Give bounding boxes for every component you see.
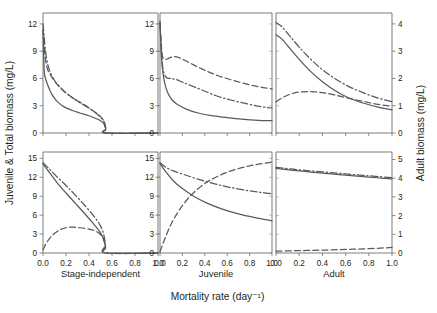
- x-tick-label: 0.6: [340, 259, 352, 268]
- y-tick-label: 5: [398, 155, 403, 164]
- x-tick-label: 0.2: [294, 259, 306, 268]
- column-label-1: Juvenile: [199, 268, 233, 279]
- y-tick-label: 3: [32, 102, 37, 111]
- x-tick-label: 0.4: [199, 259, 211, 268]
- figure-panel-grid: 036912036912012340.00.20.40.60.81.003691…: [0, 0, 437, 313]
- x-tick-label: 0.0: [37, 259, 49, 268]
- y-tick-label: 0: [398, 129, 403, 138]
- series-dashed: [276, 92, 392, 107]
- y-tick-label: 1: [398, 230, 403, 239]
- y-tick-label: 9: [32, 47, 37, 56]
- y-tick-label: 12: [145, 20, 155, 29]
- y-tick-label: 9: [32, 192, 37, 201]
- y-axis-title-right: Adult biomass (mg/L): [415, 85, 426, 181]
- series-solid: [43, 31, 158, 133]
- x-tick-label: 0.0: [154, 259, 166, 268]
- y-tick-label: 1: [398, 102, 403, 111]
- y-tick-label: 0: [398, 249, 403, 258]
- y-tick-label: 0: [149, 249, 154, 258]
- x-tick-label: 0.2: [177, 259, 189, 268]
- series-solid: [276, 35, 392, 110]
- series-dashdot: [276, 167, 392, 177]
- series-dashed: [43, 29, 158, 133]
- series-dashdot: [160, 21, 272, 108]
- y-tick-label: 3: [149, 230, 154, 239]
- y-tick-label: 3: [32, 230, 37, 239]
- x-tick-label: 0.4: [317, 259, 329, 268]
- series-dashdot: [160, 163, 272, 194]
- x-tick-label: 0.4: [83, 259, 95, 268]
- x-tick-label: 0.6: [106, 259, 118, 268]
- x-tick-label: 0.8: [363, 259, 375, 268]
- x-axis-title: Mortality rate (day⁻¹): [171, 291, 265, 302]
- y-tick-label: 9: [149, 192, 154, 201]
- y-tick-label: 4: [398, 174, 403, 183]
- y-tick-label: 0: [32, 249, 37, 258]
- y-tick-label: 3: [398, 193, 403, 202]
- x-tick-label: 0.8: [129, 259, 141, 268]
- y-tick-label: 2: [398, 212, 403, 221]
- y-tick-label: 3: [149, 102, 154, 111]
- x-tick-label: 0.2: [60, 259, 72, 268]
- series-dashdot: [43, 163, 158, 254]
- y-tick-label: 15: [28, 154, 38, 163]
- y-tick-label: 2: [398, 74, 403, 83]
- y-tick-label: 12: [145, 173, 155, 182]
- y-tick-label: 0: [32, 129, 37, 138]
- series-dashed: [43, 227, 158, 253]
- y-tick-label: 3: [398, 47, 403, 56]
- column-label-0: Stage-independent: [61, 268, 141, 279]
- x-tick-label: 0.0: [270, 259, 282, 268]
- x-tick-label: 0.8: [244, 259, 256, 268]
- chart-svg: 036912036912012340.00.20.40.60.81.003691…: [0, 0, 437, 313]
- y-tick-label: 15: [145, 154, 155, 163]
- y-tick-label: 9: [149, 47, 154, 56]
- series-solid: [43, 164, 158, 253]
- y-tick-label: 12: [28, 20, 38, 29]
- y-tick-label: 0: [149, 129, 154, 138]
- x-tick-label: 0.6: [222, 259, 234, 268]
- y-axis-title-left: Juvenile & Total biomass (mg/L): [4, 61, 15, 205]
- y-tick-label: 6: [149, 74, 154, 83]
- column-label-2: Adult: [323, 268, 345, 279]
- y-tick-label: 6: [32, 74, 37, 83]
- y-tick-label: 4: [398, 20, 403, 29]
- series-dashed: [276, 247, 392, 251]
- x-tick-label: 1.0: [386, 259, 398, 268]
- y-tick-label: 12: [28, 173, 38, 182]
- y-tick-label: 6: [149, 211, 154, 220]
- y-tick-label: 6: [32, 211, 37, 220]
- series-solid: [276, 168, 392, 178]
